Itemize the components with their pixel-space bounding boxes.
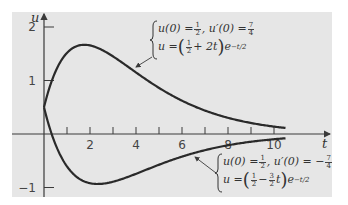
exponent: −t/2	[231, 40, 247, 54]
fraction: 32	[269, 173, 275, 188]
fraction: 74	[325, 155, 331, 170]
annotation-lower-formula: u = ( 12 − 32 t ) e−t/2	[223, 171, 333, 189]
annotation-upper: u(0) = 12 , u′(0) = 74 u = ( 12 + 2t ) e…	[150, 20, 255, 56]
exponent: −t/2	[294, 173, 310, 187]
frac-den: 4	[249, 30, 253, 37]
fraction: 12	[259, 155, 265, 170]
x-tick-label: 2	[86, 138, 94, 152]
formula-op: −	[258, 173, 267, 187]
annotation-upper-formula: u = ( 12 + 2t ) e−t/2	[158, 38, 255, 56]
formula-op: + 2t	[193, 40, 217, 54]
fraction: 74	[248, 22, 254, 37]
brace-icon	[215, 153, 223, 193]
frac-den: 2	[252, 181, 256, 188]
y-tick-label: −1	[18, 181, 36, 195]
x-tick-label: 6	[178, 138, 186, 152]
frac-den: 2	[195, 30, 199, 37]
ic-lhs: u(0) =	[158, 22, 193, 36]
ic-mid: , u′(0) =	[202, 22, 247, 36]
fraction: 12	[186, 40, 192, 55]
fraction: 12	[194, 22, 200, 37]
frac-den: 4	[326, 163, 330, 170]
formula-lhs: u =	[223, 173, 243, 187]
x-tick-label: 4	[132, 138, 140, 152]
y-tick-label: 1	[28, 74, 36, 88]
annotation-upper-ic: u(0) = 12 , u′(0) = 74	[158, 20, 255, 38]
ic-mid: , u′(0) = −	[267, 155, 325, 169]
annotation-lower: u(0) = 12 , u′(0) = − 74 u = ( 12 − 32 t…	[215, 153, 333, 189]
frac-den: 2	[260, 163, 264, 170]
fraction: 12	[251, 173, 257, 188]
annotation-lower-ic: u(0) = 12 , u′(0) = − 74	[223, 153, 333, 171]
brace-icon	[150, 20, 158, 60]
frac-den: 2	[187, 48, 191, 55]
formula-lhs: u =	[158, 40, 178, 54]
ic-lhs: u(0) =	[223, 155, 258, 169]
frac-den: 2	[270, 181, 274, 188]
x-axis-label: t	[322, 136, 328, 151]
y-axis-label: u	[31, 10, 39, 25]
